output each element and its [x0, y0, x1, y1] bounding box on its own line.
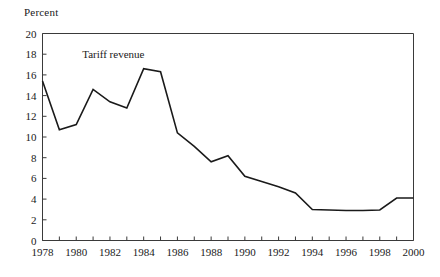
chart-page: Percent 02468101214161820 19781980198219…: [0, 0, 440, 277]
x-tick-label: 1980: [65, 246, 88, 258]
x-tick-label: 2000: [403, 246, 426, 258]
x-tick-label: 1996: [335, 246, 358, 258]
y-tick-label: 12: [26, 110, 37, 122]
x-tick-label: 1978: [32, 246, 55, 258]
y-tick-label: 4: [31, 193, 37, 205]
chart-axes: [43, 34, 414, 241]
y-tick-label: 14: [26, 90, 38, 102]
y-tick-label: 20: [26, 28, 38, 40]
data-line-tariff-revenue: [43, 69, 414, 211]
chart-ticks: [43, 34, 414, 241]
series-annotation-label: Tariff revenue: [82, 48, 144, 60]
y-tick-label: 8: [31, 152, 37, 164]
data-series-group: [43, 69, 414, 211]
plot-area-container: 02468101214161820 1978198019821984198619…: [0, 0, 440, 277]
y-tick-label: 16: [26, 69, 38, 81]
x-tick-label: 1992: [268, 246, 290, 258]
x-tick-label: 1984: [133, 246, 156, 258]
x-axis-tick-labels: 1978198019821984198619881990199219941996…: [32, 246, 426, 258]
plot-frame: [43, 34, 414, 241]
y-tick-label: 2: [31, 214, 37, 226]
x-tick-label: 1986: [166, 246, 189, 258]
x-tick-label: 1982: [99, 246, 121, 258]
x-tick-label: 1990: [234, 246, 257, 258]
y-tick-label: 6: [31, 172, 37, 184]
x-tick-label: 1998: [369, 246, 392, 258]
x-tick-label: 1994: [301, 246, 324, 258]
line-chart: 02468101214161820 1978198019821984198619…: [0, 0, 440, 277]
y-tick-label: 18: [26, 48, 38, 60]
x-tick-label: 1988: [200, 246, 223, 258]
y-axis-tick-labels: 02468101214161820: [26, 28, 38, 247]
series-annotation-group: Tariff revenue: [82, 48, 144, 60]
y-tick-label: 10: [26, 131, 38, 143]
